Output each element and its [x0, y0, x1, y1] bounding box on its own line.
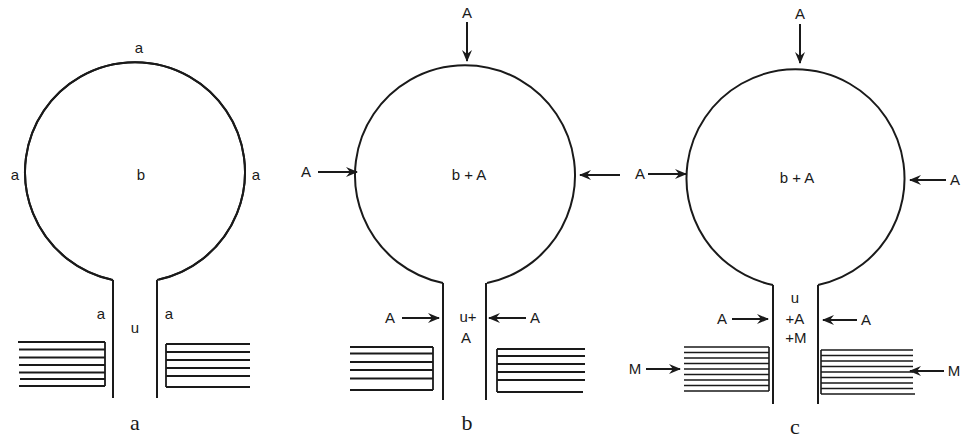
label-arrow-left: A	[635, 165, 645, 182]
label-center: b + A	[452, 166, 487, 183]
panel-a: a a a b a a u a	[11, 39, 261, 435]
left-lamellae-stack	[350, 347, 433, 390]
cell-membrane-outline	[25, 62, 245, 398]
label-arrow-stack-right: M	[948, 362, 961, 379]
label-stalk: u	[131, 319, 139, 336]
label-arrow-top: A	[462, 4, 472, 21]
label-arrow-stalk-right: A	[861, 311, 871, 328]
label-arrow-stalk-right: A	[530, 309, 540, 326]
cell-body-circle	[25, 62, 245, 279]
label-arrow-stalk-left: A	[385, 309, 395, 326]
panel-c: A A A A A M M b + A u +A +M c	[629, 5, 961, 439]
panel-b: A A A A b + A u+ A b	[301, 4, 620, 435]
right-lamellae-stack	[166, 344, 250, 387]
label-membrane-top: a	[135, 39, 144, 56]
right-lamellae-stack	[497, 349, 585, 392]
label-stalk-right: a	[165, 305, 174, 322]
label-center: b + A	[780, 169, 815, 186]
label-arrow-top: A	[795, 5, 805, 22]
diagram-figure: a a a b a a u a A A A A b + A u+ A b	[0, 0, 966, 444]
panel-caption-c: c	[790, 414, 800, 439]
label-arrow-right: A	[950, 171, 960, 188]
label-membrane-right: a	[252, 166, 261, 183]
label-arrow-left: A	[301, 163, 311, 180]
label-stalk-line2: +A	[786, 310, 805, 327]
label-membrane-left: a	[11, 166, 20, 183]
left-lamellae-stack	[684, 347, 769, 391]
label-stalk-line1: u+	[459, 308, 476, 325]
label-center: b	[137, 166, 145, 183]
panel-caption-b: b	[462, 410, 473, 435]
label-stalk-left: a	[97, 305, 106, 322]
label-stalk-line3: +M	[785, 329, 806, 346]
label-stalk-line2: A	[461, 329, 471, 346]
panel-caption-a: a	[130, 410, 140, 435]
label-stalk-line1: u	[791, 289, 799, 306]
label-arrow-stack-left: M	[629, 360, 642, 377]
right-lamellae-stack	[821, 350, 915, 394]
left-lamellae-stack	[18, 342, 105, 386]
label-arrow-stalk-left: A	[717, 310, 727, 327]
